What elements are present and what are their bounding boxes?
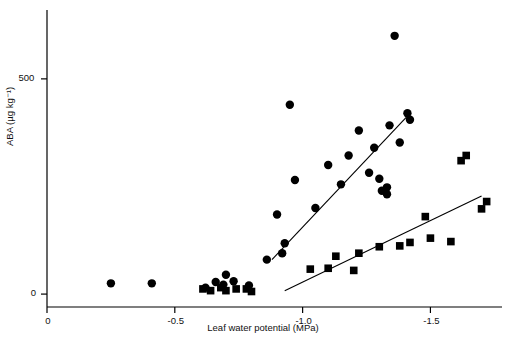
data-point-circle-14	[311, 204, 319, 212]
data-point-circle-12	[286, 100, 294, 108]
data-point-circle-27	[396, 138, 404, 146]
data-point-circle-13	[291, 176, 299, 184]
data-point-square-11	[355, 249, 363, 257]
data-point-square-7	[306, 265, 314, 273]
data-point-circle-5	[222, 271, 230, 279]
data-point-square-8	[324, 264, 332, 272]
data-point-square-17	[447, 238, 455, 246]
data-point-circle-25	[385, 121, 393, 129]
y-tick-label-1: 500	[18, 72, 34, 83]
data-point-square-1	[207, 287, 215, 295]
data-point-circle-26	[390, 32, 398, 40]
x-tick-label-2: -1.0	[292, 315, 316, 326]
data-point-circle-19	[365, 169, 373, 177]
data-point-square-15	[422, 213, 430, 221]
plot-canvas	[0, 0, 526, 344]
data-point-circle-16	[337, 180, 345, 188]
data-point-square-0	[199, 285, 207, 293]
data-point-square-13	[396, 242, 404, 250]
data-point-circle-29	[406, 116, 414, 124]
data-point-square-4	[232, 285, 240, 293]
data-point-circle-15	[324, 161, 332, 169]
x-tick-label-0: 0	[36, 315, 60, 326]
scatter-plot-figure: ABA (µg kg⁻¹) Leaf water potential (MPa)…	[0, 0, 526, 344]
data-point-square-12	[376, 243, 384, 251]
data-point-circle-18	[355, 126, 363, 134]
data-point-circle-21	[375, 175, 383, 183]
data-point-circle-6	[229, 277, 237, 285]
data-point-square-6	[248, 288, 256, 296]
data-point-circle-17	[344, 151, 352, 159]
x-axis-label: Leaf water potential (MPa)	[0, 322, 526, 333]
data-point-square-16	[427, 234, 435, 242]
x-tick-label-3: -1.5	[419, 315, 443, 326]
data-point-circle-0	[107, 279, 115, 287]
data-point-square-14	[406, 239, 414, 247]
data-point-square-9	[332, 252, 340, 260]
data-point-circle-20	[370, 144, 378, 152]
y-tick-label-0: 0	[31, 287, 36, 298]
data-point-square-21	[483, 198, 491, 206]
data-point-square-20	[478, 205, 486, 213]
data-point-circle-1	[148, 279, 156, 287]
data-point-circle-11	[281, 239, 289, 247]
data-point-square-10	[350, 267, 358, 275]
data-point-circle-9	[273, 210, 281, 218]
data-point-circle-10	[278, 249, 286, 257]
data-point-circle-8	[263, 255, 271, 263]
data-point-square-3	[222, 287, 230, 295]
x-tick-label-1: -0.5	[164, 315, 188, 326]
data-point-circle-24	[383, 190, 391, 198]
data-point-square-19	[462, 152, 470, 160]
y-axis-label: ABA (µg kg⁻¹)	[4, 87, 15, 146]
